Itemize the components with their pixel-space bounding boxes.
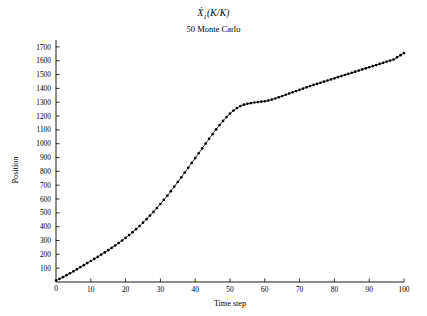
y-tick-label: 1400 [36, 84, 51, 93]
data-point [62, 276, 65, 279]
data-point [250, 102, 253, 105]
data-point [326, 79, 329, 82]
data-point [65, 274, 68, 277]
data-point [55, 279, 58, 282]
x-tick-label: 10 [87, 285, 95, 294]
data-point [100, 253, 103, 256]
data-point [305, 86, 308, 89]
data-point [183, 171, 186, 174]
data-point [135, 228, 138, 231]
data-series-position [55, 52, 406, 282]
data-point [368, 66, 371, 69]
data-point [187, 166, 190, 169]
data-point [364, 67, 367, 70]
data-point [319, 81, 322, 84]
data-point [354, 70, 357, 73]
x-tick-group: 102030405060708090100 [87, 279, 410, 295]
data-point [145, 218, 148, 221]
data-point [330, 78, 333, 81]
data-point [284, 93, 287, 96]
data-point [361, 68, 364, 71]
data-point [208, 137, 211, 140]
data-point [263, 100, 266, 103]
data-point [236, 107, 239, 110]
data-point [323, 80, 326, 83]
data-point [173, 185, 176, 188]
series-line [56, 53, 404, 280]
data-point [243, 103, 246, 106]
data-point [291, 91, 294, 94]
data-point [152, 211, 155, 214]
data-point [69, 272, 72, 275]
x-tick-label: 40 [192, 285, 200, 294]
data-point [169, 190, 172, 193]
data-point [121, 239, 124, 242]
y-tick-label: 600 [40, 195, 51, 204]
data-point [385, 60, 388, 63]
data-point [96, 255, 99, 258]
data-point [392, 58, 395, 61]
data-point [382, 61, 385, 64]
data-point [197, 152, 200, 155]
y-tick-label: 1000 [36, 139, 51, 148]
data-point [295, 90, 298, 93]
x-tick-label: 80 [331, 285, 339, 294]
data-point [343, 74, 346, 77]
data-point [58, 278, 61, 281]
data-point [190, 162, 193, 165]
y-tick-label: 1300 [36, 98, 51, 107]
data-point [211, 133, 214, 136]
data-point [128, 234, 131, 237]
data-point [256, 101, 259, 104]
data-point [79, 266, 82, 269]
data-point [93, 258, 96, 261]
data-point [163, 199, 166, 202]
y-tick-label: 1600 [36, 56, 51, 65]
data-point [357, 69, 360, 72]
y-tick-label: 900 [40, 153, 51, 162]
y-tick-label: 1100 [36, 125, 51, 134]
x-tick-label: 70 [296, 285, 304, 294]
y-tick-label: 100 [40, 264, 51, 273]
x-tick-label: 50 [226, 285, 234, 294]
data-point [86, 262, 89, 265]
data-point [399, 54, 402, 57]
data-point [309, 85, 312, 88]
data-point [232, 109, 235, 112]
data-point [333, 77, 336, 80]
data-point [378, 63, 381, 66]
y-tick-label: 300 [40, 236, 51, 245]
data-point [274, 97, 277, 100]
data-point [260, 100, 263, 103]
data-point [337, 76, 340, 79]
data-point [281, 95, 284, 98]
data-point [107, 249, 110, 252]
data-point [117, 242, 120, 245]
y-tick-label: 500 [40, 208, 51, 217]
data-point [371, 65, 374, 68]
y-tick-label: 1500 [36, 70, 51, 79]
x-tick-label: 20 [122, 285, 130, 294]
chart-figure: Ẋ1(K/K) 50 Monte Carlo 0100200300400500… [0, 0, 427, 316]
x-axis: 102030405060708090100 [56, 279, 410, 295]
data-point [201, 147, 204, 150]
data-point [166, 194, 169, 197]
y-tick-label: 800 [40, 167, 51, 176]
data-point [131, 231, 134, 234]
data-point [267, 99, 270, 102]
y-tick-label: 0 [54, 284, 58, 293]
y-tick-label: 400 [40, 222, 51, 231]
data-point [302, 87, 305, 90]
data-point [389, 59, 392, 62]
series-markers [55, 52, 406, 282]
x-axis-title: Time step [214, 299, 246, 308]
y-tick-label: 1700 [36, 43, 51, 52]
data-point [72, 270, 75, 273]
data-point [204, 142, 207, 145]
data-point [176, 181, 179, 184]
data-point [114, 244, 117, 247]
data-point [225, 116, 228, 119]
data-point [149, 214, 152, 217]
data-point [103, 251, 106, 254]
x-tick-label: 30 [157, 285, 165, 294]
